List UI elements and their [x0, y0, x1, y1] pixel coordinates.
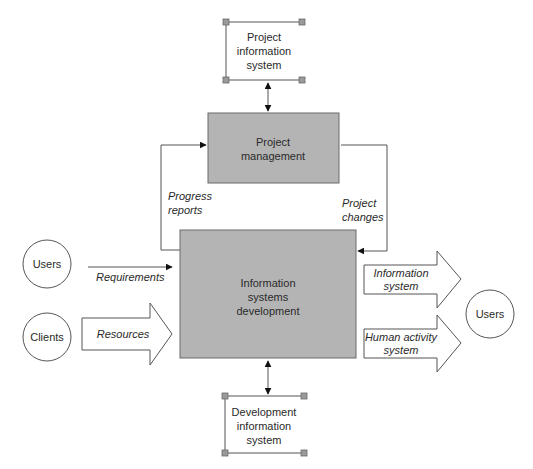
store-label-line2: information [237, 420, 291, 432]
process-label-line1: Information [240, 277, 295, 289]
corner-marker [223, 77, 229, 83]
corner-marker [301, 450, 307, 456]
flow-label-line1: Information [373, 267, 428, 279]
entity-label: Users [33, 258, 62, 270]
development-information-system-store: Development information system [222, 393, 307, 456]
project-management-process: Project management [208, 113, 339, 183]
requirements-flow: Requirements [88, 267, 172, 283]
store-label-line1: Project [247, 31, 281, 43]
entity-label: Clients [30, 331, 64, 343]
flow-label-line2: changes [342, 211, 384, 223]
flow-label-line1: Project [342, 197, 377, 209]
users-left-entity: Users [23, 240, 71, 288]
corner-marker [223, 19, 229, 25]
process-label-line2: management [241, 150, 305, 162]
flow-label: Requirements [96, 271, 165, 283]
process-label-line2: systems [248, 291, 289, 303]
flow-label-line1: Progress [168, 190, 213, 202]
flow-label-line1: Human activity [365, 331, 439, 343]
process-label-line1: Project [256, 136, 290, 148]
project-information-system-store: Project information system [223, 19, 305, 83]
store-label-line1: Development [232, 406, 297, 418]
information-systems-development-process: Information systems development [180, 230, 356, 358]
store-label-line3: system [247, 59, 282, 71]
clients-entity: Clients [23, 313, 71, 361]
store-label-line3: system [247, 434, 282, 446]
flow-label-line2: system [384, 280, 419, 292]
corner-marker [222, 393, 228, 399]
diagram-canvas: Project information system Project manag… [0, 0, 533, 469]
corner-marker [299, 19, 305, 25]
corner-marker [299, 77, 305, 83]
process-label-line3: development [237, 305, 300, 317]
users-right-entity: Users [466, 290, 514, 338]
figure-caption-clipped [22, 463, 422, 469]
corner-marker [222, 450, 228, 456]
human-activity-system-output-flow: Human activity system [364, 315, 461, 372]
flow-label-line2: system [384, 344, 419, 356]
entity-label: Users [476, 308, 505, 320]
corner-marker [301, 393, 307, 399]
store-label-line2: information [237, 45, 291, 57]
resources-flow: Resources [82, 303, 172, 365]
information-system-output-flow: Information system [364, 251, 461, 308]
flow-label-line2: reports [168, 204, 203, 216]
flow-label: Resources [97, 328, 150, 340]
